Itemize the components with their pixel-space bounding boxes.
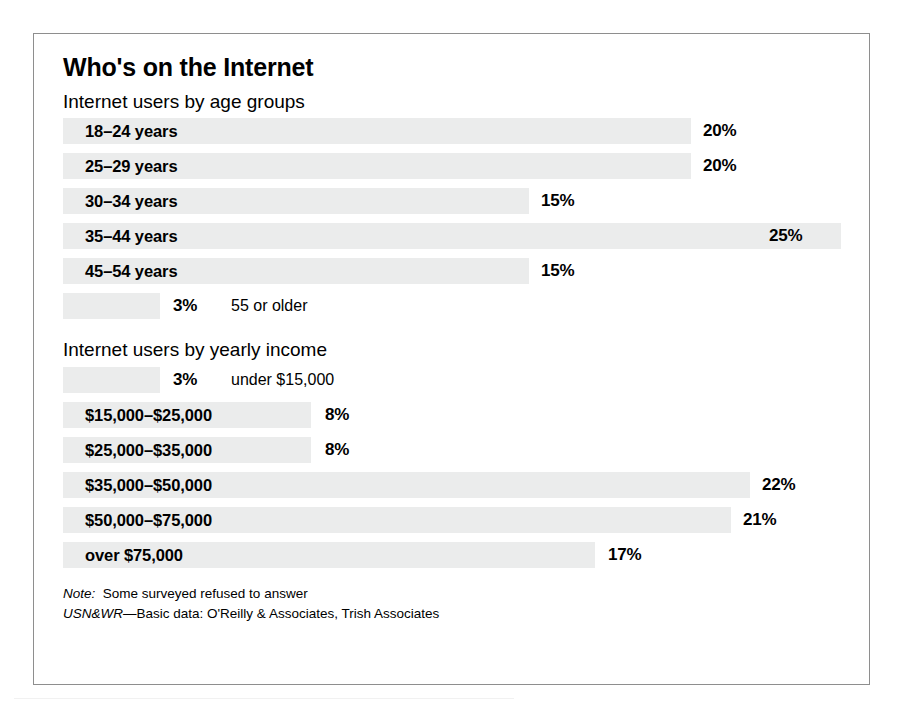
bar-category-label: over $75,000: [85, 542, 183, 568]
bar-row: $15,000–$25,0008%: [63, 402, 851, 428]
bar-value-label: 3%: [173, 367, 197, 393]
age-bar-list: 18–24 years20%25–29 years20%30–34 years1…: [63, 118, 851, 319]
bar-value-label: 25%: [769, 223, 802, 249]
footnotes: Note: Some surveyed refused to answer US…: [63, 584, 851, 623]
bar-fill: [63, 367, 160, 393]
bar-fill: [63, 223, 841, 249]
bar-category-label: $50,000–$75,000: [85, 507, 212, 533]
bar-value-label: 8%: [325, 437, 349, 463]
chart-content: Who's on the Internet Internet users by …: [63, 54, 851, 623]
footnote-source: USN&WR—Basic data: O'Reilly & Associates…: [63, 604, 851, 624]
bar-value-label: 21%: [743, 507, 776, 533]
footnote-source-text: —Basic data: O'Reilly & Associates, Tris…: [123, 606, 439, 621]
footnote-source-prefix: USN&WR: [63, 606, 123, 621]
bar-value-label: 22%: [762, 472, 795, 498]
bar-row: under $15,0003%: [63, 367, 851, 393]
footnote-note-text: Some surveyed refused to answer: [103, 586, 308, 601]
bar-row: 18–24 years20%: [63, 118, 851, 144]
income-bar-list: under $15,0003%$15,000–$25,0008%$25,000–…: [63, 367, 851, 568]
bar-category-label: 30–34 years: [85, 188, 178, 214]
bar-row: 30–34 years15%: [63, 188, 851, 214]
income-section-label: Internet users by yearly income: [63, 339, 851, 361]
bar-category-label: $35,000–$50,000: [85, 472, 212, 498]
bar-category-label: 35–44 years: [85, 223, 178, 249]
footnote-note: Note: Some surveyed refused to answer: [63, 584, 851, 604]
bar-category-label: 25–29 years: [85, 153, 178, 179]
income-section: Internet users by yearly income under $1…: [63, 339, 851, 568]
bar-row: $35,000–$50,00022%: [63, 472, 851, 498]
bar-category-label: $25,000–$35,000: [85, 437, 212, 463]
age-section: Internet users by age groups 18–24 years…: [63, 91, 851, 320]
chart-frame: Who's on the Internet Internet users by …: [33, 33, 870, 685]
bar-row: 55 or older3%: [63, 293, 851, 319]
bar-row: $50,000–$75,00021%: [63, 507, 851, 533]
bar-row: 35–44 years25%: [63, 223, 851, 249]
bar-category-label: 45–54 years: [85, 258, 178, 284]
bar-row: 25–29 years20%: [63, 153, 851, 179]
bar-category-label: 18–24 years: [85, 118, 178, 144]
bar-value-label: 20%: [703, 153, 736, 179]
bar-value-label: 8%: [325, 402, 349, 428]
chart-title: Who's on the Internet: [63, 54, 851, 82]
bar-value-label: 17%: [608, 542, 641, 568]
bar-row: 45–54 years15%: [63, 258, 851, 284]
bar-row: $25,000–$35,0008%: [63, 437, 851, 463]
bar-value-label: 15%: [541, 258, 574, 284]
bar-category-label: $15,000–$25,000: [85, 402, 212, 428]
bar-value-label: 3%: [173, 293, 197, 319]
bar-value-label: 20%: [703, 118, 736, 144]
footnote-note-prefix: Note:: [63, 586, 95, 601]
age-section-label: Internet users by age groups: [63, 91, 851, 113]
scan-artifact-line: [14, 698, 514, 699]
bar-category-label: 55 or older: [231, 293, 308, 319]
bar-category-label: under $15,000: [231, 367, 334, 393]
bar-value-label: 15%: [541, 188, 574, 214]
bar-row: over $75,00017%: [63, 542, 851, 568]
bar-fill: [63, 293, 160, 319]
